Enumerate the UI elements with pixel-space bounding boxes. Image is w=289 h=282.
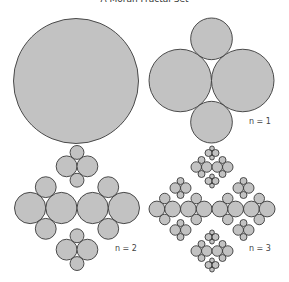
- fractal-disc: [70, 257, 84, 271]
- fractal-disc: [70, 173, 84, 187]
- fractal-disc: [177, 178, 184, 185]
- fractal-disc: [198, 171, 205, 178]
- fractal-diagram: n = 1 n = 2 n = 3: [0, 0, 289, 282]
- fractal-disc: [210, 174, 215, 179]
- fractal-disc: [210, 258, 215, 263]
- fractal-disc: [191, 18, 233, 60]
- fractal-disc: [191, 101, 233, 143]
- fractal-disc: [177, 220, 184, 227]
- fractal-disc: [160, 214, 171, 225]
- fractal-disc: [210, 239, 215, 244]
- fractal-disc: [160, 193, 171, 204]
- fractal-disc: [177, 192, 184, 199]
- fractal-disc: [210, 155, 215, 160]
- fractal-disc: [35, 177, 56, 198]
- fractal-disc: [149, 49, 212, 112]
- fractal-disc: [254, 214, 265, 225]
- fractal-disc: [240, 192, 247, 199]
- fractal-disc: [198, 255, 205, 262]
- fractal-disc: [198, 241, 205, 248]
- fractal-disc: [219, 255, 226, 262]
- fractal-disc: [191, 214, 202, 225]
- fractal-disc: [219, 157, 226, 164]
- fractal-disc: [98, 177, 119, 198]
- fractal-disc: [70, 229, 84, 243]
- fractal-disc: [198, 157, 205, 164]
- fractal-disc: [223, 193, 234, 204]
- fractal-disc: [177, 234, 184, 241]
- panel-level-3: [149, 146, 275, 272]
- fractal-disc: [223, 214, 234, 225]
- fractal-disc: [14, 192, 45, 223]
- fractal-disc: [210, 267, 215, 272]
- fractal-disc: [219, 171, 226, 178]
- fractal-disc: [98, 218, 119, 239]
- fractal-disc: [108, 192, 139, 223]
- fractal-disc: [240, 178, 247, 185]
- level-label-n2: n = 2: [115, 244, 137, 253]
- level-label-n3: n = 3: [249, 244, 271, 253]
- fractal-disc: [210, 183, 215, 188]
- fractal-disc: [240, 220, 247, 227]
- fractal-disc: [219, 241, 226, 248]
- panel-level-0: [14, 19, 139, 144]
- fractal-disc: [191, 193, 202, 204]
- fractal-disc: [210, 230, 215, 235]
- fractal-disc: [35, 218, 56, 239]
- fractal-disc: [46, 192, 77, 223]
- fractal-disc: [212, 49, 275, 112]
- fractal-disc: [254, 193, 265, 204]
- fractal-disc: [77, 192, 108, 223]
- fractal-disc: [14, 19, 139, 144]
- fractal-disc: [240, 234, 247, 241]
- fractal-disc: [70, 146, 84, 160]
- fractal-disc: [210, 146, 215, 151]
- level-label-n1: n = 1: [249, 117, 271, 126]
